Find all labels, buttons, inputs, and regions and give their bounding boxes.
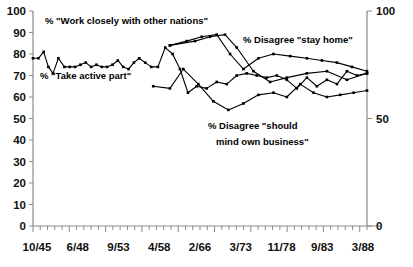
data-point-marker — [133, 61, 136, 64]
data-point-marker — [306, 57, 309, 60]
data-point-marker — [272, 91, 275, 94]
data-point-marker — [122, 66, 125, 69]
data-point-marker — [150, 66, 153, 69]
data-point-marker — [179, 68, 182, 71]
data-point-marker — [194, 40, 197, 43]
data-point-marker — [182, 68, 185, 71]
data-point-marker — [326, 96, 329, 99]
y-axis-tick-label-right: 100 — [376, 5, 395, 17]
data-point-marker — [144, 61, 147, 64]
data-point-marker — [215, 33, 218, 36]
data-point-marker — [187, 91, 190, 94]
data-point-marker — [366, 70, 369, 73]
data-point-marker — [272, 53, 275, 56]
data-point-marker — [63, 66, 66, 69]
chart-plot-area: 0102030405060708090100 050100 10/456/489… — [0, 0, 413, 267]
data-point-marker — [336, 83, 339, 86]
x-axis-labels: 10/456/489/534/582/663/7311/789/833/88 — [23, 241, 375, 253]
data-point-marker — [225, 83, 228, 86]
y-axis-tick-label: 100 — [7, 5, 26, 17]
data-point-marker — [286, 76, 289, 79]
data-point-marker — [84, 61, 87, 64]
data-point-marker — [252, 70, 255, 73]
y-axis-tick-label: 20 — [13, 177, 26, 189]
y-axis-tick-label: 40 — [13, 134, 26, 146]
data-point-marker — [101, 66, 104, 69]
data-point-marker — [306, 72, 309, 75]
y-axis-tick-label-right: 0 — [376, 220, 382, 232]
data-point-marker — [336, 61, 339, 64]
data-point-marker — [79, 63, 82, 66]
data-point-marker — [245, 72, 248, 75]
line-chart: 0102030405060708090100 050100 10/456/489… — [0, 0, 413, 267]
data-point-marker — [326, 70, 329, 73]
data-point-marker — [32, 57, 35, 60]
y-axis-tick-label: 70 — [13, 70, 26, 82]
x-axis-tick-label: 2/66 — [189, 241, 211, 253]
data-point-marker — [171, 53, 174, 56]
data-point-marker — [269, 81, 272, 84]
data-point-marker — [157, 66, 160, 69]
annotation-mind-own-business-line1: % Disagree "should — [208, 120, 298, 131]
data-point-marker — [200, 36, 203, 39]
x-axis-tick-label: 3/73 — [230, 241, 252, 253]
y-axis-tick-label: 0 — [20, 220, 26, 232]
data-point-marker — [242, 68, 245, 71]
x-axis-tick-label: 3/88 — [352, 241, 375, 253]
y-axis-tick-label: 30 — [13, 156, 26, 168]
data-point-marker — [366, 89, 369, 92]
x-axis-tick-label: 9/53 — [107, 241, 129, 253]
data-point-marker — [257, 94, 260, 97]
data-point-marker — [95, 63, 98, 66]
data-point-marker — [312, 91, 315, 94]
annotation-mind-own-business-line2: mind own business" — [216, 136, 309, 147]
x-axis-tick-label: 6/48 — [67, 241, 90, 253]
annotation-disagree-stay-home: % Disagree "stay home" — [243, 34, 353, 45]
data-point-marker — [235, 74, 238, 77]
data-point-marker — [257, 57, 260, 60]
data-point-marker — [326, 79, 329, 82]
data-point-marker — [138, 57, 141, 60]
data-point-marker — [352, 91, 355, 94]
data-point-marker — [185, 40, 188, 43]
data-point-marker — [169, 44, 172, 47]
data-point-marker — [42, 51, 45, 54]
data-point-marker — [68, 66, 71, 69]
x-axis-tick-label: 4/58 — [148, 241, 171, 253]
data-point-marker — [47, 66, 50, 69]
data-point-marker — [346, 79, 349, 82]
data-point-marker — [37, 57, 40, 60]
data-point-marker — [152, 85, 155, 88]
annotation-work-closely: % "Work closely with other nations" — [45, 15, 208, 26]
data-point-marker — [90, 66, 93, 69]
data-point-marker — [266, 76, 269, 79]
data-point-marker — [74, 66, 77, 69]
data-point-marker — [224, 33, 227, 36]
x-axis-tick-label: 11/78 — [267, 241, 296, 253]
data-point-marker — [205, 87, 208, 90]
data-point-marker — [316, 85, 319, 88]
data-point-marker — [227, 109, 230, 112]
annotation-take-active-part: % "Take active part" — [40, 70, 131, 81]
data-point-marker — [229, 53, 232, 56]
data-point-marker — [351, 66, 354, 69]
data-point-marker — [106, 66, 109, 69]
x-axis-tick-label: 10/45 — [23, 241, 52, 253]
data-point-marker — [215, 81, 218, 84]
x-axis-tick-label: 9/83 — [311, 241, 333, 253]
y-axis-tick-label: 10 — [13, 199, 26, 211]
data-point-marker — [346, 70, 349, 73]
data-point-marker — [169, 87, 172, 90]
data-point-marker — [321, 59, 324, 62]
data-point-marker — [306, 76, 309, 79]
y-axis-tick-label-right: 50 — [376, 113, 389, 125]
data-point-marker — [164, 46, 167, 49]
y-axis-tick-label: 50 — [13, 113, 26, 125]
data-point-marker — [117, 59, 120, 62]
y-axis-tick-label: 90 — [13, 27, 26, 39]
data-point-marker — [235, 46, 238, 49]
data-point-marker — [197, 83, 200, 86]
data-point-marker — [276, 74, 279, 77]
data-point-marker — [289, 55, 292, 58]
y-axis-tick-label: 60 — [13, 91, 26, 103]
